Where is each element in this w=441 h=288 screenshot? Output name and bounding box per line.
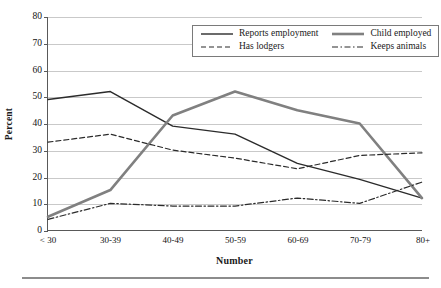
x-axis-tick-label: 30-39 [100,236,121,245]
x-axis-tick-label: < 30 [40,236,56,245]
legend-item: Keeps animals [331,42,431,52]
legend-item-label: Has lodgers [239,42,284,52]
x-axis-tick-label: 40-49 [163,236,184,245]
line-chart-figure: Percent 01020304050607080 < 3030-3940-49… [0,0,441,288]
x-axis-tick-label: 70-79 [350,236,371,245]
series-line-keeps-animals [48,182,422,219]
x-axis-tick-label: 80+ [416,236,430,245]
y-axis-tick-label: 10 [33,200,43,210]
legend-item-label: Keeps animals [370,42,426,52]
y-axis-tick [44,231,48,232]
legend-item-label: Reports employment [239,29,318,39]
y-axis-tick-label: 30 [33,146,43,156]
series-line-reports-employment [48,92,422,198]
y-axis-tick-label: 60 [33,66,43,76]
y-axis-tick-label: 40 [33,119,43,129]
legend-item: Reports employment [200,29,318,39]
y-axis-tick-label: 20 [33,173,43,183]
legend-item-label: Child employed [370,29,431,39]
series-line-has-lodgers [48,134,422,169]
dashed-line-icon [200,42,234,52]
series-line-child-employed [48,92,422,217]
x-axis-title: Number [47,255,422,266]
plot-area: 01020304050607080 < 3030-3940-4950-5960-… [47,17,422,231]
y-axis-tick-label: 80 [33,12,43,22]
figure-bottom-rule [22,277,429,279]
legend-item: Has lodgers [200,42,318,52]
y-axis-tick-label: 70 [33,39,43,49]
legend-item: Child employed [331,29,431,39]
y-axis-tick-label: 50 [33,93,43,103]
solid-dark-line-icon [200,29,234,39]
y-axis-title: Percent [4,108,14,140]
dashdot-line-icon [331,42,365,52]
x-axis-tick-label: 60-69 [288,236,309,245]
solid-gray-thick-line-icon [331,29,365,39]
chart-legend: Reports employmentChild employedHas lodg… [192,25,439,57]
x-axis-tick-label: 50-59 [225,236,246,245]
